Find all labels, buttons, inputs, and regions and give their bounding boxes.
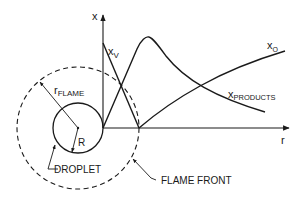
- flame-front-leader: [133, 159, 156, 180]
- products-curve: [103, 37, 265, 128]
- droplet-flame-diagram: x r xV xO xPRODUCTS rFLAME R DROPLET FLA…: [0, 0, 305, 199]
- flame-radius-label: rFLAME: [54, 84, 84, 98]
- products-label: xPRODUCTS: [228, 88, 276, 102]
- x-axis-label: r: [281, 134, 285, 146]
- oxidizer-label: xO: [267, 39, 279, 53]
- droplet-radius-label: R: [78, 137, 85, 148]
- y-axis-label: x: [92, 10, 98, 22]
- flame-front-label: FLAME FRONT: [161, 175, 232, 186]
- oxidizer-curve: [139, 51, 285, 128]
- droplet-label: DROPLET: [54, 164, 101, 175]
